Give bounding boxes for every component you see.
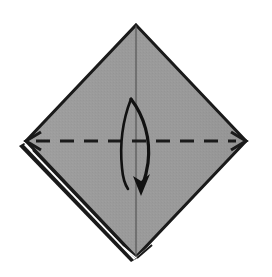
origami-diagram-container (0, 0, 272, 277)
origami-diagram-svg (0, 0, 272, 277)
